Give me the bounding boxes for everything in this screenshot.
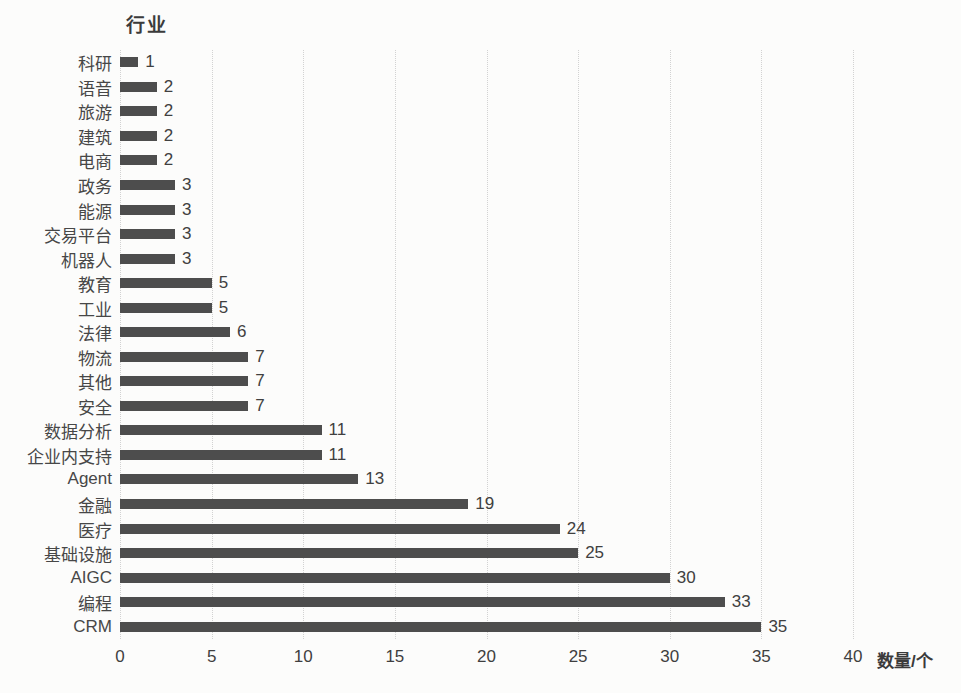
category-label: 建筑 (78, 123, 112, 148)
bar (120, 106, 157, 116)
bar-row: 机器人3 (120, 246, 853, 271)
category-label: 数据分析 (44, 418, 112, 443)
bar-row: 教育5 (120, 271, 853, 296)
bar-row: Agent13 (120, 467, 853, 492)
bar (120, 573, 670, 583)
value-label: 3 (182, 175, 191, 195)
x-tick-label: 10 (294, 647, 313, 667)
value-label: 11 (329, 445, 347, 465)
bar (120, 597, 725, 607)
category-label: 教育 (78, 271, 112, 296)
bar (120, 131, 157, 141)
value-label: 24 (567, 519, 586, 539)
bar-row: 企业内支持11 (120, 443, 853, 468)
bar-row: 旅游2 (120, 99, 853, 124)
category-label: Agent (68, 469, 112, 489)
value-label: 3 (182, 249, 191, 269)
bar-row: 物流7 (120, 345, 853, 370)
bar-chart-figure: 行业 科研1语音2旅游2建筑2电商2政务3能源3交易平台3机器人3教育5工业5法… (0, 0, 961, 693)
bar-row: CRM35 (120, 614, 853, 639)
category-label: AIGC (70, 568, 112, 588)
category-label: 政务 (78, 172, 112, 197)
x-tick-label: 30 (660, 647, 679, 667)
bar (120, 180, 175, 190)
value-label: 3 (182, 200, 191, 220)
bar-row: 科研1 (120, 50, 853, 75)
value-label: 5 (219, 298, 228, 318)
value-label: 11 (329, 420, 347, 440)
x-axis-label: 数量/个 (877, 647, 933, 672)
bar-row: 政务3 (120, 173, 853, 198)
bar (120, 327, 230, 337)
x-tick-label: 40 (844, 647, 863, 667)
bar (120, 450, 322, 460)
bar (120, 474, 358, 484)
bar-row: 医疗24 (120, 516, 853, 541)
value-label: 7 (255, 371, 264, 391)
x-tick-label: 0 (115, 647, 124, 667)
x-tick-label: 25 (569, 647, 588, 667)
value-label: 1 (145, 52, 154, 72)
category-label: 电商 (78, 148, 112, 173)
bar-row: 其他7 (120, 369, 853, 394)
bar-row: 电商2 (120, 148, 853, 173)
value-label: 6 (237, 322, 246, 342)
category-label: 金融 (78, 492, 112, 517)
chart-title: 行业 (126, 10, 168, 37)
category-label: 语音 (78, 74, 112, 99)
bar-row: 法律6 (120, 320, 853, 345)
value-label: 2 (164, 150, 173, 170)
bar-row: AIGC30 (120, 565, 853, 590)
value-label: 30 (677, 568, 696, 588)
category-label: 医疗 (78, 516, 112, 541)
bar (120, 205, 175, 215)
bar (120, 278, 212, 288)
value-label: 33 (732, 592, 751, 612)
category-label: CRM (73, 617, 112, 637)
bar (120, 425, 322, 435)
bar (120, 499, 468, 509)
category-label: 编程 (78, 590, 112, 615)
bar-row: 金融19 (120, 492, 853, 517)
category-label: 机器人 (61, 246, 112, 271)
category-label: 工业 (78, 295, 112, 320)
category-label: 法律 (78, 320, 112, 345)
value-label: 35 (768, 617, 787, 637)
bar (120, 376, 248, 386)
category-label: 旅游 (78, 99, 112, 124)
category-label: 能源 (78, 197, 112, 222)
bar (120, 524, 560, 534)
bar (120, 155, 157, 165)
bar-row: 基础设施25 (120, 541, 853, 566)
value-label: 2 (164, 101, 173, 121)
category-label: 交易平台 (44, 222, 112, 247)
bar (120, 303, 212, 313)
value-label: 3 (182, 224, 191, 244)
bar (120, 82, 157, 92)
value-label: 2 (164, 126, 173, 146)
value-label: 7 (255, 347, 264, 367)
x-tick-label: 5 (207, 647, 216, 667)
bar (120, 57, 138, 67)
bar-row: 安全7 (120, 394, 853, 419)
x-tick-label: 35 (752, 647, 771, 667)
category-label: 物流 (78, 344, 112, 369)
bar-row: 工业5 (120, 295, 853, 320)
bar (120, 548, 578, 558)
category-label: 其他 (78, 369, 112, 394)
bar (120, 401, 248, 411)
value-label: 13 (365, 469, 384, 489)
bar-row: 编程33 (120, 590, 853, 615)
bar-row: 语音2 (120, 75, 853, 100)
x-tick-label: 20 (477, 647, 496, 667)
gridline-40 (853, 50, 854, 639)
value-label: 5 (219, 273, 228, 293)
bar (120, 352, 248, 362)
x-tick-label: 15 (385, 647, 404, 667)
plot-area: 科研1语音2旅游2建筑2电商2政务3能源3交易平台3机器人3教育5工业5法律6物… (120, 50, 853, 639)
bar (120, 622, 761, 632)
bar-row: 数据分析11 (120, 418, 853, 443)
bar (120, 254, 175, 264)
category-label: 安全 (78, 393, 112, 418)
bar-row: 建筑2 (120, 124, 853, 149)
